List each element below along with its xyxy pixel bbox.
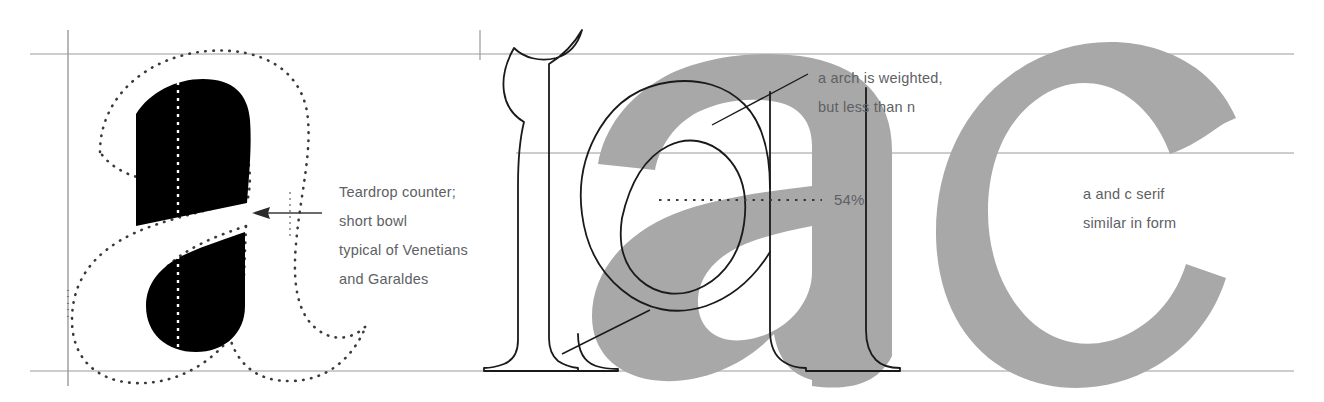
leader-arrow-left — [252, 192, 322, 236]
solid-counter-teardrop — [136, 79, 251, 226]
typography-diagram-page: Teardrop counter; short bowl typical of … — [0, 0, 1324, 402]
annotation-teardrop-counter: Teardrop counter; short bowl typical of … — [339, 178, 468, 294]
measurement-label-54-percent: 54% — [834, 191, 865, 208]
annotation-serif-similarity: a and c serif similar in form — [1083, 180, 1176, 238]
serif-a-flag-terminal — [484, 30, 582, 371]
annotation-arch-weight: a arch is weighted, but less than n — [818, 64, 943, 122]
left-panel-glyph-a — [68, 51, 366, 384]
leader-arrow-head — [252, 207, 270, 219]
solid-counter-bowl — [146, 232, 245, 352]
